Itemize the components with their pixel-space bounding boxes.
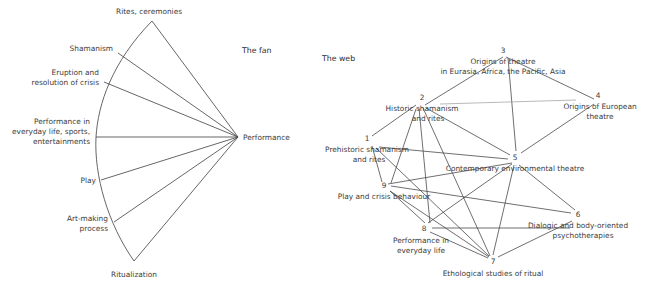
fan-label-everyday-line1: Performance in xyxy=(34,117,90,126)
fan-label-shamanism: Shamanism xyxy=(70,44,113,53)
web-node-4-label-line2: theatre xyxy=(587,112,614,121)
web-node-7-label: Ethological studies of ritual xyxy=(443,269,544,278)
web-node-5-label: Contemporary environmental theatre xyxy=(446,164,585,173)
web-node-3-label-line1: Origins of theatre xyxy=(471,57,536,66)
fan-label-play: Play xyxy=(81,176,97,185)
web-node-9-label: Play and crisis behaviour xyxy=(338,192,431,201)
web-edge-5-7 xyxy=(493,165,514,255)
fan-label-rites-ceremonies: Rites, ceremonies xyxy=(116,7,182,16)
fan-label-ritualization: Ritualization xyxy=(111,270,157,279)
fan-title: The fan xyxy=(241,46,272,55)
web-node-1-number: 1 xyxy=(365,134,370,143)
fan-label-eruption-line2: resolution of crisis xyxy=(32,78,100,87)
web-node-4-number: 4 xyxy=(596,91,601,100)
web-title: The web xyxy=(321,54,355,63)
fan-label-eruption-line1: Eruption and xyxy=(52,68,100,77)
figure-canvas: The fan Performance Rites, ceremonies Sh… xyxy=(0,0,653,293)
web-node-8-number: 8 xyxy=(422,224,427,233)
diagram-svg: The fan Performance Rites, ceremonies Sh… xyxy=(0,0,653,293)
web-node-2-number: 2 xyxy=(420,93,425,102)
web-node-3-label-line2: in Eurasia, Africa, the Pacific, Asia xyxy=(440,67,565,76)
web-node-6-label-line1: Dialogic and body-oriented xyxy=(528,221,629,230)
web-node-9-number: 9 xyxy=(382,181,387,190)
web-node-4-label-line1: Origins of European xyxy=(563,102,637,111)
fan-panel: The fan Performance Rites, ceremonies Sh… xyxy=(12,7,290,279)
web-edge-2-4 xyxy=(440,100,576,104)
web-node-3-number: 3 xyxy=(501,46,506,55)
fan-label-art-making-line2: process xyxy=(80,224,109,233)
web-node-6-label-line2: psychotherapies xyxy=(552,231,613,240)
web-node-2-label-line2: and rites xyxy=(412,114,445,123)
web-edge-4-5 xyxy=(521,104,594,153)
web-node-1-label-line1: Prehistoric shamanism xyxy=(325,145,409,154)
fan-label-everyday-line3: entertainments xyxy=(33,137,90,146)
web-node-7-number: 7 xyxy=(491,257,496,266)
fan-spoke-play xyxy=(101,137,238,180)
web-node-6-number: 6 xyxy=(576,210,581,219)
web-panel: The web xyxy=(321,46,637,278)
web-node-2-label-line1: Historic shamanism xyxy=(386,104,459,113)
fan-apex-label: Performance xyxy=(243,133,290,142)
web-node-8-label-line2: everyday life xyxy=(397,246,446,255)
fan-edge-bottom xyxy=(134,137,238,261)
web-node-5-number: 5 xyxy=(513,153,518,162)
fan-spoke-art-making xyxy=(114,137,238,222)
web-node-1-label-line2: and rites xyxy=(353,155,386,164)
fan-label-everyday-line2: everyday life, sports, xyxy=(12,127,90,136)
web-node-8-label-line1: Performance in xyxy=(393,236,449,245)
fan-label-art-making-line1: Art-making xyxy=(67,214,108,223)
web-edge-2-8 xyxy=(419,108,430,223)
